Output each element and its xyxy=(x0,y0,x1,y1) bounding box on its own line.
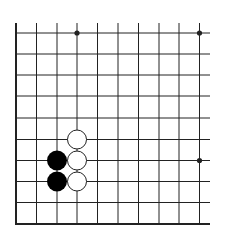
white-stone xyxy=(68,130,87,149)
star-point-icon xyxy=(74,30,79,35)
white-stone xyxy=(68,172,87,191)
white-stone xyxy=(68,151,87,170)
star-point-icon xyxy=(197,30,202,35)
board-grid xyxy=(15,23,210,225)
star-point-icon xyxy=(197,158,202,163)
black-stone xyxy=(47,151,67,171)
go-board xyxy=(0,0,225,238)
black-stone xyxy=(47,172,67,192)
